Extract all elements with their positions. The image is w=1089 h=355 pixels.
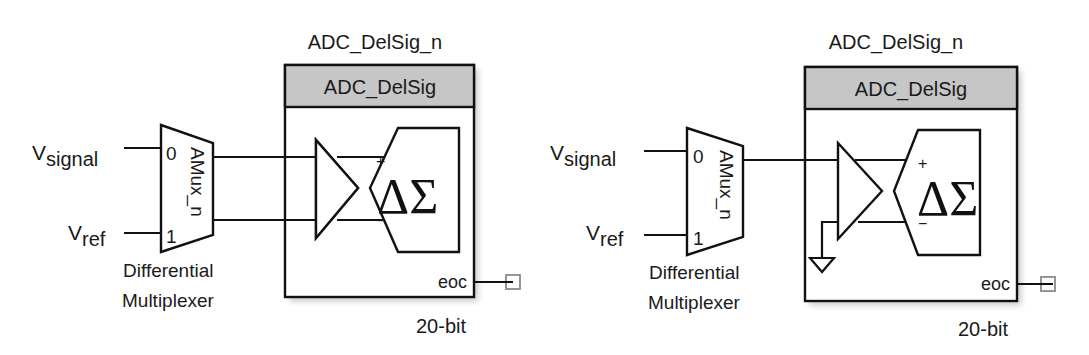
resolution-label: 20-bit — [416, 315, 466, 337]
mux-caption-line2: Multiplexer — [648, 292, 741, 313]
amux-multiplexer[interactable]: 0 1 AMux_n — [687, 128, 743, 255]
amux-multiplexer[interactable]: 0 1 AMux_n — [161, 125, 213, 252]
mux-input-0-label: 0 — [693, 146, 704, 167]
mux-input-1-label: 1 — [693, 228, 704, 249]
vref-label: Vref — [586, 221, 624, 250]
component-type-label: ADC_DelSig — [324, 76, 436, 99]
vsignal-label: Vsignal — [32, 141, 98, 170]
delta-sigma-symbol: ΔΣ — [917, 170, 978, 226]
vref-label: Vref — [68, 221, 106, 250]
mux-caption-line1: Differential — [123, 260, 213, 281]
mux-input-0-label: 0 — [166, 143, 177, 164]
component-type-label: ADC_DelSig — [855, 78, 967, 101]
eoc-pin-label: eoc — [438, 272, 467, 292]
component-instance-name: ADC_DelSig_n — [829, 31, 964, 54]
mux-name-label: AMux_n — [186, 147, 208, 217]
eoc-pin-label: eoc — [981, 274, 1010, 294]
mux-caption-line2: Multiplexer — [122, 290, 215, 311]
resolution-label: 20-bit — [958, 318, 1008, 340]
mux-caption-line1: Differential — [649, 262, 739, 283]
component-instance-name: ADC_DelSig_n — [308, 31, 443, 54]
mux-name-label: AMux_n — [715, 150, 737, 220]
vsignal-label: Vsignal — [550, 141, 616, 170]
diagram-left-differential: Vsignal Vref 0 1 AMux_n Differential Mul… — [32, 31, 520, 337]
diagram-right-single-ended: Vsignal Vref 0 1 AMux_n Differential Mul… — [550, 31, 1055, 340]
mux-input-1-label: 1 — [166, 226, 177, 247]
adc-delsig-component[interactable]: ADC_DelSig + − ΔΣ eoc — [743, 67, 1017, 301]
adc-delsig-component[interactable]: ADC_DelSig + − ΔΣ eoc — [213, 65, 474, 297]
delta-sigma-symbol: ΔΣ — [377, 168, 438, 224]
